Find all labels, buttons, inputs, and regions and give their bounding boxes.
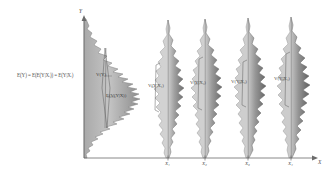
conditional-density-area-1-left: [154, 20, 168, 158]
conditional-variance-label-4: V(Y|X₄): [274, 77, 290, 82]
y-axis-label: Y: [79, 9, 82, 14]
conditional-distribution-1: [154, 20, 184, 158]
x-axis-label: X: [318, 160, 321, 165]
figure-root: Y X E(Y) = E(E(Y|Xᵢ)) = E(Y|Xᵢ) V(Y) E(V…: [0, 0, 325, 176]
x-tick-label-2: X₂: [202, 161, 207, 166]
x-tick-label-3: X₃: [245, 161, 250, 166]
conditional-distribution-4: [277, 17, 310, 158]
x-tick-label-4: X₄: [288, 161, 293, 166]
marginal-variance-label: V(Y): [96, 73, 106, 78]
marginal-distribution-of-y: [84, 18, 140, 158]
conditional-density-area-1: [168, 20, 184, 158]
x-tick-label-1: X₁: [165, 161, 170, 166]
total-expectation-equation: E(Y) = E(E(Y|Xᵢ)) = E(Y|Xᵢ): [17, 73, 73, 78]
conditional-distribution-3: [234, 18, 266, 158]
marginal-density-area: [84, 18, 140, 158]
conditional-density-area-2: [205, 19, 222, 158]
conditional-density-area-4: [291, 17, 310, 158]
conditional-variance-label-1: V(Y|X₁): [148, 84, 164, 89]
y-axis-arrowhead: [82, 15, 87, 21]
conditional-density-area-2-left: [191, 19, 205, 158]
conditional-density-area-3: [248, 18, 266, 158]
expected-conditional-variance-label: E(V(Y|X)): [106, 94, 126, 99]
conditional-variance-label-2: V(Y|X₂): [190, 81, 206, 86]
conditional-distribution-2: [191, 19, 222, 158]
conditional-density-area-3-left: [234, 18, 248, 158]
conditional-density-area-4-left: [277, 17, 291, 158]
conditional-variance-label-3: V(Y|X₃): [231, 80, 247, 85]
